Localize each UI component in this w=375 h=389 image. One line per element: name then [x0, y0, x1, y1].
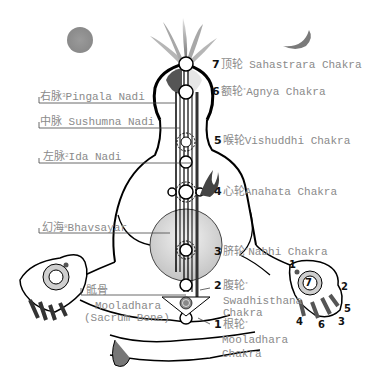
- bhavsayar-en: Bhavsayar: [68, 222, 127, 234]
- hand-number-5: 5: [344, 303, 351, 314]
- hand-number-4: 4: [296, 316, 303, 327]
- hand-palm-number: 7: [305, 277, 312, 288]
- chakra-6-en: Agnya Chakra: [246, 86, 325, 98]
- chakra-7-cn: 顶轮: [221, 58, 243, 71]
- pingala-en: Pingala Nadi: [66, 91, 145, 103]
- label-bhavsayar: 幻海8Bhavsayar: [42, 222, 127, 234]
- label-chakra-5: 5喉轮Vishuddhi Chakra: [214, 135, 350, 147]
- ida-sup: 2: [65, 152, 69, 159]
- chakra-2-cn: 腹轮: [223, 279, 245, 292]
- label-chakra-2-en1: Swadhisthana: [223, 295, 302, 307]
- sushumna-cn: 中脉: [40, 115, 62, 128]
- chakra-5-num: 5: [214, 134, 222, 147]
- label-chakra-2: 2腹轮*: [214, 280, 248, 292]
- hand-number-3: 3: [338, 316, 345, 327]
- pingala-sup: 3: [62, 92, 66, 99]
- chakra-2-sup: *: [245, 281, 249, 288]
- label-pingala-nadi: 右脉3Pingala Nadi: [40, 91, 145, 103]
- label-sacrum-cn: 骶骨: [86, 285, 108, 297]
- chakra-6-sup: *: [243, 87, 247, 94]
- label-chakra-7: 7顶轮 Sahastrara Chakra: [212, 59, 361, 71]
- chakra-6-num: 6: [212, 85, 220, 98]
- chakra-7-en: Sahastrara Chakra: [249, 59, 361, 71]
- crescent-moon-icon: [283, 30, 311, 49]
- chakra-4-num: 4: [214, 185, 222, 198]
- label-chakra-1: 1根轮*: [214, 319, 248, 331]
- left-hand: [20, 255, 87, 320]
- chakra-1-num: 1: [214, 318, 222, 331]
- chakra-4-en: Anahata Chakra: [245, 186, 337, 198]
- chakra-6-cn: 额轮: [221, 85, 243, 98]
- sacrum-cn: 骶骨: [86, 284, 108, 297]
- sushumna-en: Sushumna Nadi: [69, 116, 155, 128]
- chakra-4-cn: 心轮: [223, 185, 245, 198]
- label-sacrum-en2: (Sacrum Bone): [84, 312, 170, 324]
- label-sacrum-en1: Mooladhara: [95, 300, 161, 312]
- chakra-3-en: Nabhi Chakra: [248, 246, 327, 258]
- chakra-diagram: 右脉3Pingala Nadi 中脉 Sushumna Nadi 左脉2Ida …: [0, 0, 375, 389]
- sun-icon: [67, 27, 93, 53]
- ida-cn: 左脉: [43, 150, 65, 163]
- chakra-1-cn: 根轮: [223, 318, 245, 331]
- label-ida-nadi: 左脉2Ida Nadi: [43, 151, 121, 163]
- ida-en: Ida Nadi: [69, 151, 122, 163]
- right-hand: [290, 261, 343, 318]
- label-chakra-1-en2: Chakra: [222, 348, 262, 360]
- hand-number-2: 2: [341, 281, 348, 292]
- chakra-5-en: Vishuddhi Chakra: [245, 135, 351, 147]
- bhavsayar-sup: 8: [64, 223, 68, 230]
- hand-number-1: 1: [289, 259, 296, 270]
- chakra-3-cn: 脐轮: [223, 245, 245, 258]
- chakra-7-num: 7: [212, 58, 220, 71]
- hand-number-6: 6: [318, 319, 325, 330]
- chakra-3-sup: *: [245, 247, 249, 254]
- chakra-1-sup: *: [245, 320, 249, 327]
- label-chakra-6: 6额轮*Agnya Chakra: [212, 86, 325, 98]
- label-chakra-4: 4心轮Anahata Chakra: [214, 186, 337, 198]
- chakra-3-num: 3: [214, 245, 222, 258]
- chakra-2-num: 2: [214, 279, 222, 292]
- label-sushumna-nadi: 中脉 Sushumna Nadi: [40, 116, 154, 128]
- label-chakra-3: 3脐轮*Nabhi Chakra: [214, 246, 327, 258]
- chakra-5-cn: 喉轮: [223, 134, 245, 147]
- bhavsayar-cn: 幻海: [42, 221, 64, 234]
- label-chakra-1-en1: Mooladhara: [222, 334, 288, 346]
- pingala-cn: 右脉: [40, 90, 62, 103]
